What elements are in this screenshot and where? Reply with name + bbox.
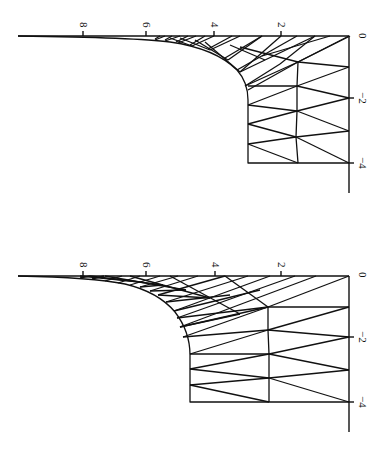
tick-minus-4: −4 <box>357 157 369 169</box>
mesh-plot-top: 8 6 4 2 0 −2 −4 <box>0 0 385 230</box>
triangulated-mesh-top <box>18 36 350 163</box>
tick-minus-2: −2 <box>357 92 369 104</box>
tick-0: 0 <box>357 272 369 278</box>
tick-2: 2 <box>276 22 288 28</box>
tick-minus-2: −2 <box>357 331 369 343</box>
mesh-figure-top: 8 6 4 2 0 −2 −4 <box>0 0 385 230</box>
mesh-plot-bottom: 8 6 4 2 0 −2 −4 <box>0 230 385 461</box>
triangulated-mesh-bottom <box>18 276 349 402</box>
tick-4: 4 <box>209 22 221 28</box>
mesh-figure-bottom: 8 6 4 2 0 −2 −4 <box>0 230 385 460</box>
tick-8: 8 <box>78 22 90 28</box>
tick-8: 8 <box>78 262 90 268</box>
tick-minus-4: −4 <box>357 396 369 408</box>
tick-0: 0 <box>357 33 369 39</box>
tick-6: 6 <box>141 262 153 268</box>
tick-6: 6 <box>141 22 153 28</box>
axes-top <box>18 31 354 193</box>
tick-2: 2 <box>276 262 288 268</box>
tick-4: 4 <box>210 262 222 268</box>
